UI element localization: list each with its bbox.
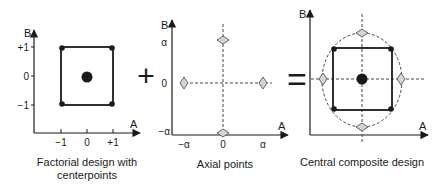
axial-panel: B A α 0 −α −α 0 α Axial points bbox=[158, 19, 288, 170]
x-axis-label: A bbox=[130, 118, 138, 130]
caption: Axial points bbox=[197, 158, 254, 170]
axial-point-top bbox=[356, 29, 368, 37]
corner-point bbox=[109, 45, 115, 51]
x-tick-minus1: −1 bbox=[55, 137, 67, 148]
y-tick-0: 0 bbox=[23, 71, 29, 82]
axial-point-left bbox=[319, 73, 327, 85]
y-tick-plus1: +1 bbox=[18, 42, 30, 53]
ccd-diagram: B A +1 0 −1 −1 0 +1 Factorial design wit… bbox=[0, 0, 444, 191]
caption-line2: centerpoints bbox=[57, 169, 117, 181]
axial-point-bottom bbox=[356, 123, 368, 131]
x-tick-0: 0 bbox=[220, 139, 226, 150]
axial-point-top bbox=[217, 36, 229, 44]
corner-point bbox=[59, 101, 65, 107]
center-point bbox=[357, 74, 368, 85]
caption: Central composite design bbox=[300, 156, 424, 168]
center-point bbox=[82, 72, 93, 83]
plus-operator: + bbox=[137, 59, 155, 92]
x-tick-plus1: +1 bbox=[107, 137, 119, 148]
y-tick-0: 0 bbox=[161, 78, 167, 89]
x-tick-0: 0 bbox=[84, 137, 90, 148]
axial-point-right bbox=[259, 77, 267, 89]
caption-line1: Factorial design with bbox=[37, 156, 137, 168]
x-axis-label: A bbox=[278, 120, 286, 132]
axial-point-right bbox=[397, 73, 405, 85]
y-tick-minus1: −1 bbox=[18, 100, 30, 111]
axial-point-left bbox=[180, 77, 188, 89]
corner-point bbox=[331, 106, 337, 112]
x-tick-minus-alpha: −α bbox=[178, 139, 190, 150]
y-axis-label: B bbox=[299, 8, 306, 20]
y-axis-label: B bbox=[161, 19, 168, 31]
corner-point bbox=[59, 45, 65, 51]
factorial-panel: B A +1 0 −1 −1 0 +1 Factorial design wit… bbox=[18, 27, 140, 181]
x-tick-alpha: α bbox=[260, 139, 266, 150]
y-tick-minus-alpha: −α bbox=[158, 126, 170, 137]
corner-point bbox=[331, 46, 337, 52]
corner-point bbox=[388, 106, 394, 112]
y-axis-label: B bbox=[24, 27, 31, 39]
ccd-panel: B A Central composite design bbox=[299, 8, 428, 168]
axial-point-bottom bbox=[217, 129, 229, 137]
y-tick-alpha: α bbox=[161, 37, 167, 48]
equals-operator: = bbox=[287, 60, 307, 98]
corner-point bbox=[109, 101, 115, 107]
x-axis-label: A bbox=[419, 120, 427, 132]
corner-point bbox=[388, 46, 394, 52]
